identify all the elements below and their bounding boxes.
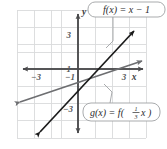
x-axis-name: x — [131, 72, 137, 82]
graph-figure: −3 −1 3 3 1 −3 x y f(x) = x − 1 g(x) = f… — [0, 0, 167, 149]
f-callout: f(x) = x − 1 — [88, 2, 165, 17]
y-axis-name: y — [81, 7, 87, 17]
g-callout-fraction-numerator: 1 — [135, 106, 138, 112]
g-callout-fraction-denominator: 3 — [134, 114, 138, 120]
figure-background — [0, 0, 167, 149]
y-tick-label-3: 3 — [66, 30, 72, 40]
x-tick-label-neg3: −3 — [31, 72, 41, 82]
g-callout-suffix: ) — [147, 107, 152, 119]
graph-canvas: −3 −1 3 3 1 −3 x y f(x) = x − 1 g(x) = f… — [0, 0, 167, 149]
y-tick-label-neg3: −3 — [63, 104, 73, 114]
f-callout-label: f(x) = x − 1 — [103, 4, 150, 16]
g-callout-prefix: g(x) = f( — [90, 107, 125, 119]
g-callout: g(x) = f( 1 3 x ) — [83, 103, 160, 121]
y-tick-label-1: 1 — [67, 64, 72, 74]
x-tick-label-3: 3 — [121, 72, 127, 82]
g-callout-variable: x — [140, 107, 146, 118]
